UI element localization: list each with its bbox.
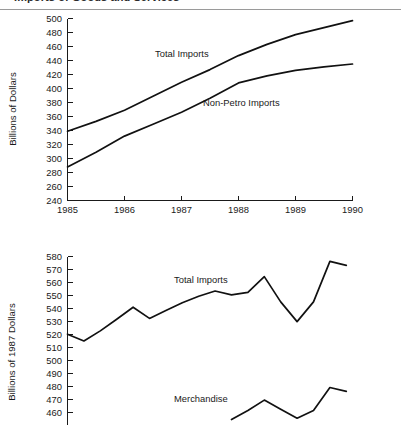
y-tick-label: 560 — [46, 277, 62, 288]
clipped-header-text: Imports of Goods and Services — [14, 0, 180, 3]
chart-imports-real: 580 570 560 550 540 530 520 510 500 490 … — [0, 222, 401, 425]
chart-imports-nominal: 500 480 460 440 420 400 380 360 340 320 … — [0, 10, 401, 222]
y-tick-label: 500 — [46, 355, 62, 366]
y-axis-title: Billions of Dollars — [7, 72, 18, 146]
axis-lines — [68, 19, 353, 201]
y-tick-label: 580 — [46, 251, 62, 262]
y-tick-label: 360 — [46, 111, 62, 122]
non-petro-imports-label: Non-Petro Imports — [203, 97, 280, 108]
x-tick-label: 1988 — [228, 204, 249, 215]
y-tick-label: 460 — [46, 407, 62, 418]
y-tick-label: 340 — [46, 125, 62, 136]
y-axis-tick-labels: 580 570 560 550 540 530 520 510 500 490 … — [46, 251, 62, 418]
y-tick-label: 280 — [46, 167, 62, 178]
y-tick-label: 380 — [46, 97, 62, 108]
y-axis-ticks — [68, 19, 73, 201]
y-tick-label: 420 — [46, 69, 62, 80]
x-tick-label: 1989 — [285, 204, 306, 215]
x-tick-label: 1986 — [114, 204, 135, 215]
x-tick-label: 1985 — [57, 204, 78, 215]
y-tick-label: 540 — [46, 303, 62, 314]
y-tick-label: 520 — [46, 329, 62, 340]
x-axis-tick-labels: 1985 1986 1987 1988 1989 1990 — [57, 204, 363, 215]
series-line-merchandise — [232, 388, 347, 420]
y-tick-label: 490 — [46, 368, 62, 379]
y-tick-label: 320 — [46, 139, 62, 150]
y-tick-label: 570 — [46, 264, 62, 275]
y-tick-label: 470 — [46, 394, 62, 405]
y-tick-label: 440 — [46, 55, 62, 66]
y-tick-label: 500 — [46, 13, 62, 24]
series-line-total-imports — [68, 21, 353, 132]
page-root: Imports of Goods and Services — [0, 0, 401, 425]
y-axis-tick-labels: 500 480 460 440 420 400 380 360 340 320 … — [46, 13, 62, 206]
y-tick-label: 460 — [46, 41, 62, 52]
y-tick-label: 300 — [46, 153, 62, 164]
y-tick-label: 400 — [46, 83, 62, 94]
y-tick-label: 480 — [46, 27, 62, 38]
y-tick-label: 260 — [46, 181, 62, 192]
x-tick-label: 1987 — [171, 204, 192, 215]
y-tick-label: 550 — [46, 290, 62, 301]
y-axis-title: Billions of 1987 Dollars — [6, 303, 17, 401]
y-tick-label: 480 — [46, 381, 62, 392]
total-imports-label: Total Imports — [155, 48, 209, 59]
total-imports-label: Total Imports — [174, 274, 228, 285]
x-tick-label: 1990 — [342, 204, 363, 215]
x-axis-ticks — [68, 196, 353, 201]
y-tick-label: 510 — [46, 342, 62, 353]
chart-imports-nominal-svg: 500 480 460 440 420 400 380 360 340 320 … — [0, 10, 401, 222]
merchandise-label: Merchandise — [174, 393, 228, 404]
chart-imports-real-svg: 580 570 560 550 540 530 520 510 500 490 … — [0, 222, 401, 425]
y-tick-label: 530 — [46, 316, 62, 327]
